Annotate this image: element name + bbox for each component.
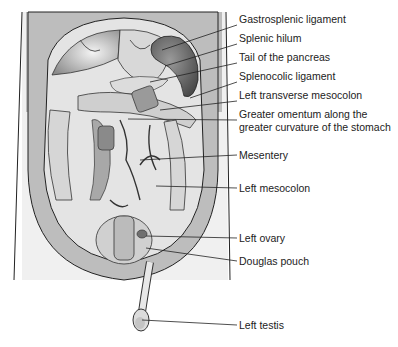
label-splenocolic-ligament: Splenocolic ligament <box>239 70 335 82</box>
rectum-uterus <box>114 216 134 260</box>
left-ovary-shape <box>137 230 147 238</box>
label-left-ovary: Left ovary <box>239 232 285 244</box>
abdomen-illustration <box>0 0 398 347</box>
label-tail-of-pancreas: Tail of the pancreas <box>239 51 330 63</box>
label-left-transverse-mesocolon: Left transverse mesocolon <box>239 89 362 101</box>
vessel-cut <box>98 126 114 150</box>
label-left-testis: Left testis <box>239 319 284 331</box>
anatomy-figure: Gastrosplenic ligament Splenic hilum Tai… <box>0 0 398 347</box>
label-splenic-hilum: Splenic hilum <box>239 32 301 44</box>
label-mesentery: Mesentery <box>239 149 288 161</box>
label-douglas-pouch: Douglas pouch <box>239 255 309 267</box>
label-left-mesocolon: Left mesocolon <box>239 182 310 194</box>
label-greater-omentum: Greater omentum along the <box>239 108 367 120</box>
label-gastrosplenic-ligament: Gastrosplenic ligament <box>239 13 346 25</box>
label-greater-omentum-line2: greater curvature of the stomach <box>239 121 391 133</box>
